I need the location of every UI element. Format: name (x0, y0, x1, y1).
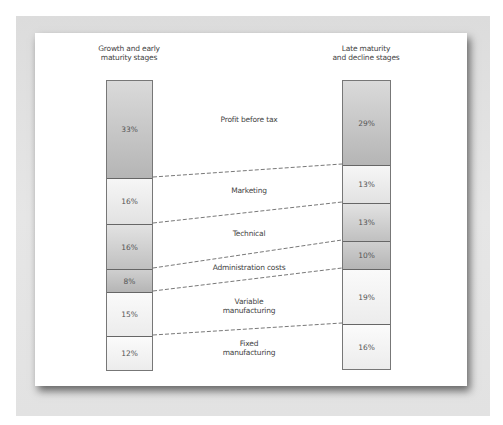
connector-variable-fixed (153, 323, 342, 335)
connector-profit-marketing (153, 164, 342, 177)
label-variable-line-1: Variable (189, 297, 309, 306)
connector-marketing-technical (153, 202, 342, 223)
label-fixed-line-2: manufacturing (189, 348, 309, 357)
label-profit-before-tax: Profit before tax (189, 115, 309, 124)
label-technical: Technical (189, 229, 309, 238)
label-fixed-line-1: Fixed (189, 339, 309, 348)
label-administration-costs: Administration costs (189, 263, 309, 272)
label-variable-line-2: manufacturing (189, 306, 309, 315)
label-fixed-manufacturing: Fixed manufacturing (189, 339, 309, 357)
label-marketing: Marketing (189, 186, 309, 195)
label-variable-manufacturing: Variable manufacturing (189, 297, 309, 315)
connector-lines (0, 0, 503, 425)
